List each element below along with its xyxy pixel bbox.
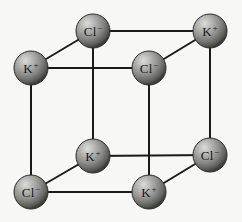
ion-sphere-front-top-right bbox=[132, 51, 166, 85]
crystal-lattice-figure: Cl−K+K+Cl−K+Cl−Cl−K+ bbox=[0, 0, 242, 222]
ion-layer bbox=[14, 14, 227, 209]
ion-sphere-front-bottom-right bbox=[132, 175, 166, 209]
ion-sphere-back-bottom-right bbox=[193, 138, 227, 172]
ion-sphere-back-top-left bbox=[76, 14, 110, 48]
ion-sphere-back-bottom-left bbox=[76, 139, 110, 173]
ion-sphere-front-bottom-left bbox=[14, 175, 48, 209]
ion-sphere-front-top-left bbox=[14, 51, 48, 85]
ion-sphere-back-top-right bbox=[193, 14, 227, 48]
lattice-edge-back-bottom-edge bbox=[93, 155, 210, 156]
lattice-diagram bbox=[0, 0, 242, 222]
bond-layer bbox=[31, 31, 210, 192]
